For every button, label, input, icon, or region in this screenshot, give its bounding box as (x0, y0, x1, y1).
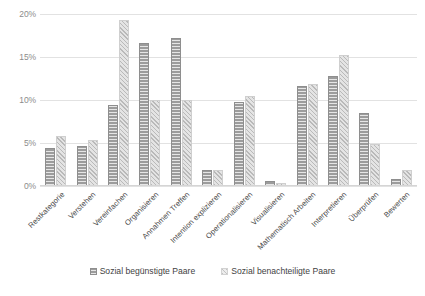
bar[interactable] (171, 38, 181, 186)
bar[interactable] (339, 55, 349, 186)
bar-chart: 0%5%10%15%20% RestkategorieVerstehenVere… (0, 0, 425, 296)
bar-group (354, 14, 385, 186)
bar[interactable] (88, 140, 98, 186)
bar-group (134, 14, 165, 186)
bar[interactable] (139, 43, 149, 186)
y-axis-tick-label: 10% (2, 95, 36, 105)
chart-legend: Sozial begünstigte PaareSozial benachtei… (0, 266, 425, 276)
legend-label: Sozial begünstigte Paare (100, 266, 196, 276)
bar-group (323, 14, 354, 186)
bar[interactable] (234, 102, 244, 186)
bar[interactable] (77, 146, 87, 186)
bar[interactable] (359, 113, 369, 186)
bar[interactable] (150, 100, 160, 186)
bar[interactable] (182, 100, 192, 186)
y-axis-tick-label: 15% (2, 52, 36, 62)
bar[interactable] (108, 105, 118, 186)
bar[interactable] (119, 20, 129, 186)
bar[interactable] (45, 148, 55, 186)
x-axis-category-label: Restkategorie (26, 190, 66, 230)
y-axis-tick-label: 20% (2, 9, 36, 19)
bar-group (197, 14, 228, 186)
legend-swatch-icon (221, 268, 228, 275)
gridline (40, 186, 417, 187)
x-axis-line (40, 185, 417, 186)
bar-group (71, 14, 102, 186)
legend-label: Sozial benachteiligte Paare (231, 266, 335, 276)
bar[interactable] (370, 144, 380, 186)
legend-swatch-icon (90, 268, 97, 275)
bar[interactable] (202, 170, 212, 186)
bar[interactable] (56, 136, 66, 186)
bar-groups (40, 14, 417, 186)
bar-group (260, 14, 291, 186)
bar-group (386, 14, 417, 186)
legend-item[interactable]: Sozial begünstigte Paare (90, 266, 196, 276)
x-axis-category-label: Mathematisch Arbeiten (256, 190, 318, 252)
bar[interactable] (328, 76, 338, 186)
bar[interactable] (402, 170, 412, 186)
bar-group (291, 14, 322, 186)
bar-group (166, 14, 197, 186)
x-axis-category-labels: RestkategorieVerstehenVereinfachenOrgani… (40, 190, 417, 262)
bar-group (103, 14, 134, 186)
bar[interactable] (297, 86, 307, 186)
bar-group (229, 14, 260, 186)
legend-item[interactable]: Sozial benachteiligte Paare (221, 266, 335, 276)
y-axis-tick-label: 0% (2, 181, 36, 191)
plot-area (40, 14, 417, 186)
y-axis-tick-label: 5% (2, 138, 36, 148)
bar[interactable] (245, 96, 255, 186)
bar[interactable] (213, 170, 223, 186)
x-axis-category-label: Verstehen (67, 190, 98, 221)
bar[interactable] (308, 84, 318, 186)
bar-group (40, 14, 71, 186)
x-axis-category-label: Überprüfen (347, 190, 381, 224)
x-axis-category-label: Bewerten (382, 190, 411, 219)
